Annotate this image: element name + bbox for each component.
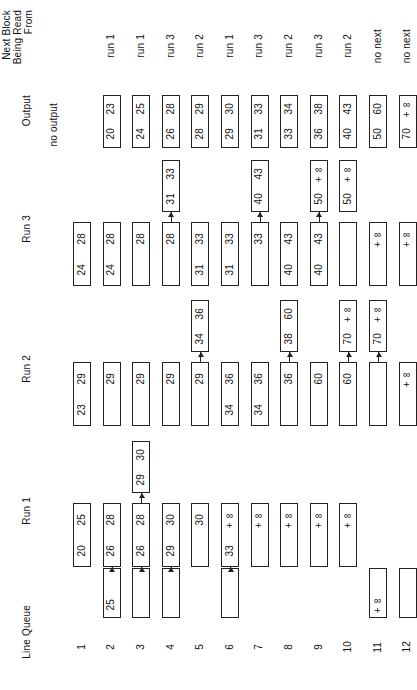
box-upper-value-text: 25 — [136, 103, 147, 115]
next-block-value-line7-text: run 3 — [254, 34, 265, 58]
box-lower-value-text: 34 — [225, 404, 236, 416]
box-lower-value-text: 20 — [77, 545, 88, 557]
next-block-value-line11: no next — [369, 14, 387, 78]
line-queue-box-line2: 25 — [103, 568, 121, 618]
output-box-line3: 2524 — [132, 95, 150, 148]
box-upper-value-text: 60 — [343, 373, 354, 385]
output-box-line5: 2928 — [191, 95, 209, 148]
box-upper-value — [133, 569, 149, 593]
box-upper-value-text: 34 — [284, 103, 295, 115]
box-lower-value: 28 — [192, 122, 208, 148]
next-block-value-line3-text: run 1 — [136, 34, 147, 58]
box-lower-value-text: 40 — [314, 264, 325, 276]
line-queue-box-line6 — [221, 568, 239, 618]
box-lower-value — [281, 394, 297, 425]
box-lower-value-text: 36 — [314, 128, 325, 140]
box-lower-value-text: 70 — [402, 128, 413, 140]
next-block-value-line8: run 2 — [280, 14, 298, 78]
box-lower-value-text: 28 — [195, 128, 206, 140]
run1-box-line8: +∞ — [280, 503, 298, 567]
run2-box-line4: 29 — [162, 362, 180, 426]
box-lower-value — [163, 394, 179, 425]
run3-box-line7: 33 — [251, 222, 269, 286]
run1-box-line5: 30 — [191, 503, 209, 567]
box-lower-value: 26 — [104, 535, 120, 566]
box-lower-value — [340, 254, 356, 285]
box-lower-value: 24 — [104, 254, 120, 285]
box-lower-value: 26 — [133, 535, 149, 566]
arrow-head — [346, 352, 352, 357]
line-number-11-text: 11 — [373, 642, 384, 653]
arrow-head — [109, 567, 115, 572]
box-upper-value-text: +∞ — [314, 511, 325, 528]
box-lower-value-text: 25 — [106, 599, 117, 611]
box-upper-value-text: 33 — [254, 233, 265, 245]
box-lower-value: 31 — [252, 122, 268, 148]
box-lower-value — [133, 254, 149, 285]
box-upper-value-text: 28 — [106, 514, 117, 526]
box-upper-value: 28 — [104, 223, 120, 254]
box-upper-value: 23 — [104, 96, 120, 122]
next-block-value-line12: no next — [399, 14, 417, 78]
box-lower-value — [133, 593, 149, 617]
run2-buffer-box-line11: +∞70 — [369, 300, 387, 352]
box-lower-value-text: 26 — [166, 128, 177, 140]
box-lower-value: 70 — [400, 122, 416, 148]
box-upper-value: 33 — [222, 223, 238, 254]
run3-buffer-box-line4: 3331 — [162, 160, 180, 212]
run1-label-text: Run 1 — [22, 497, 33, 525]
box-lower-value-text: +∞ — [373, 596, 384, 613]
box-upper-value-text: 30 — [195, 514, 206, 526]
box-lower-value: 33 — [281, 122, 297, 148]
box-lower-value — [104, 394, 120, 425]
box-lower-value-text: 20 — [106, 128, 117, 140]
box-upper-value — [400, 569, 416, 593]
box-upper-value: 28 — [133, 223, 149, 254]
box-upper-value: 28 — [163, 223, 179, 254]
run3-buffer-box-line9: +∞50 — [310, 160, 328, 212]
box-upper-value: 33 — [252, 223, 268, 254]
output-box-line4: 2826 — [162, 95, 180, 148]
box-upper-value — [222, 569, 238, 593]
line-queue-box-line4 — [162, 568, 180, 618]
run1-buffer-box-line3: 3029 — [132, 441, 150, 493]
box-lower-value — [370, 394, 386, 425]
run2-box-line7: 3634 — [251, 362, 269, 426]
line-queue-box-line11: +∞ — [369, 568, 387, 618]
output-box-line7: 3331 — [251, 95, 269, 148]
box-upper-value-text: 43 — [343, 103, 354, 115]
box-lower-value — [311, 394, 327, 425]
box-upper-value-text: 25 — [77, 514, 88, 526]
box-upper-value-text: 33 — [225, 233, 236, 245]
box-upper-value: 60 — [340, 363, 356, 394]
box-upper-value-text: 33 — [195, 233, 206, 245]
arrow-head — [228, 567, 234, 572]
next-block-value-line8-text: run 2 — [284, 34, 295, 58]
box-lower-value: 31 — [163, 186, 179, 211]
run3-box-line4: 28 — [162, 222, 180, 286]
box-upper-value-text: 33 — [166, 168, 177, 180]
box-upper-value: 25 — [133, 96, 149, 122]
box-upper-value-text: +∞ — [402, 370, 413, 387]
run3-box-line12: +∞ — [399, 222, 417, 286]
box-upper-value-text: 29 — [195, 373, 206, 385]
run3-box-line9: 4340 — [310, 222, 328, 286]
run2-box-line10: 60 — [339, 362, 357, 426]
arrow-head — [287, 352, 293, 357]
box-upper-value: 36 — [281, 363, 297, 394]
box-lower-value-text: 50 — [314, 193, 325, 205]
next-block-label-line3: From — [24, 10, 35, 52]
box-upper-value: +∞ — [252, 504, 268, 535]
box-lower-value — [400, 593, 416, 617]
box-upper-value-text: 43 — [314, 233, 325, 245]
box-upper-value — [163, 569, 179, 593]
box-lower-value: 29 — [222, 122, 238, 148]
box-upper-value-text: 38 — [314, 103, 325, 115]
box-upper-value: 28 — [133, 504, 149, 535]
box-lower-value — [340, 535, 356, 566]
box-upper-value-text: +∞ — [343, 305, 354, 322]
box-upper-value-text: 60 — [284, 308, 295, 320]
box-lower-value-text: 31 — [254, 128, 265, 140]
box-lower-value-text: 70 — [343, 333, 354, 345]
box-upper-value-text: 60 — [314, 373, 325, 385]
